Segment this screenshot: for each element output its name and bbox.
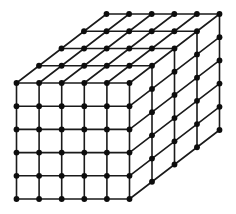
lattice-node <box>126 63 132 69</box>
lattice-node <box>36 150 42 156</box>
lattice-node <box>149 11 155 17</box>
lattice-node <box>36 126 42 132</box>
lattice-node <box>81 103 87 109</box>
lattice-node <box>104 173 110 179</box>
lattice-node <box>59 196 65 202</box>
lattice-node <box>194 98 200 104</box>
lattice-node <box>126 28 132 34</box>
lattice-node <box>104 126 110 132</box>
lattice-node <box>127 126 133 132</box>
lattice-node <box>217 58 223 64</box>
lattice-node <box>149 86 155 92</box>
lattice-node <box>81 150 87 156</box>
lattice-node <box>104 63 110 69</box>
lattice-node <box>36 196 42 202</box>
lattice-node <box>104 28 110 34</box>
lattice-node <box>126 11 132 17</box>
lattice-node <box>59 46 65 52</box>
lattice-node <box>172 28 178 34</box>
lattice-node <box>194 11 200 17</box>
lattice-node <box>36 173 42 179</box>
lattice-node <box>81 80 87 86</box>
lattice-node <box>81 46 87 52</box>
lattice-node <box>149 46 155 52</box>
lattice-node <box>104 46 110 52</box>
lattice-node <box>81 28 87 34</box>
lattice-node <box>127 173 133 179</box>
lattice-node <box>14 80 20 86</box>
lattice-node <box>127 80 133 86</box>
lattice-node <box>59 126 65 132</box>
lattice-node <box>104 103 110 109</box>
lattice-node <box>104 196 110 202</box>
lattice-node <box>59 63 65 69</box>
lattice-node <box>127 196 133 202</box>
lattice-node <box>149 63 155 69</box>
lattice-node <box>81 196 87 202</box>
lattice-edges <box>17 14 220 199</box>
lattice-node <box>194 121 200 127</box>
lattice-node <box>104 150 110 156</box>
lattice-node <box>171 11 177 17</box>
lattice-node <box>149 132 155 138</box>
lattice-node <box>194 28 200 34</box>
lattice-node <box>104 80 110 86</box>
lattice-node <box>172 138 178 144</box>
lattice-node <box>59 150 65 156</box>
lattice-node <box>127 150 133 156</box>
lattice-node <box>14 103 20 109</box>
lattice-node <box>217 11 223 17</box>
lattice-node <box>81 126 87 132</box>
lattice-node <box>194 144 200 150</box>
lattice-node <box>217 127 223 133</box>
lattice-node <box>172 92 178 98</box>
lattice-node <box>59 173 65 179</box>
lattice-node <box>149 109 155 115</box>
lattice-node <box>59 80 65 86</box>
lattice-node <box>172 69 178 75</box>
lattice-node <box>59 103 65 109</box>
lattice-node <box>149 28 155 34</box>
lattice-node <box>81 63 87 69</box>
lattice-node <box>14 196 20 202</box>
lattice-node <box>14 126 20 132</box>
lattice-node <box>194 75 200 81</box>
lattice-node <box>172 162 178 168</box>
lattice-node <box>149 156 155 162</box>
lattice-node <box>36 63 42 69</box>
lattice-node <box>217 34 223 40</box>
lattice-node <box>36 103 42 109</box>
lattice-node <box>194 52 200 58</box>
lattice-node <box>172 115 178 121</box>
lattice-node <box>104 11 110 17</box>
lattice-node <box>149 179 155 185</box>
lattice-node <box>127 103 133 109</box>
lattice-cube-svg <box>0 0 236 214</box>
lattice-node <box>217 81 223 87</box>
lattice-node <box>126 46 132 52</box>
lattice-node <box>81 173 87 179</box>
lattice-node <box>14 173 20 179</box>
lattice-node <box>172 46 178 52</box>
lattice-node <box>217 104 223 110</box>
lattice-node <box>36 80 42 86</box>
lattice-cube-diagram <box>0 0 236 214</box>
lattice-node <box>14 150 20 156</box>
